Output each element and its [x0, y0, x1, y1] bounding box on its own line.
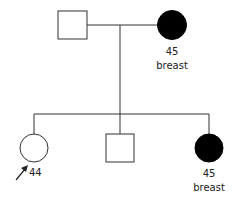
- mother-female-affected-circle: [158, 11, 187, 40]
- sister-condition-label: breast: [193, 182, 225, 193]
- sister-age-label: 45: [203, 168, 216, 179]
- proband-arrow-icon: [16, 165, 28, 180]
- proband-age-label: 44: [29, 167, 42, 178]
- pedigree-diagram: 45 breast 44 45 breast: [0, 0, 241, 200]
- brother-male-unaffected-square: [106, 134, 134, 162]
- father-male-unaffected-square: [58, 11, 87, 39]
- mother-condition-label: breast: [156, 60, 188, 71]
- mother-age-label: 45: [166, 46, 179, 57]
- sister-female-affected-circle: [195, 134, 223, 162]
- proband-female-unaffected-circle: [20, 134, 48, 162]
